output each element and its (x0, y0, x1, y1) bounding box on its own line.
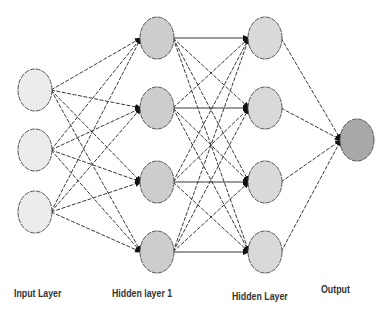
connection-edge (173, 182, 249, 252)
input-node-1 (18, 69, 52, 111)
hidden2-node-2 (248, 87, 282, 129)
connection-edge (281, 140, 341, 252)
hidden-layer-2-label: Hidden Layer (232, 291, 288, 302)
connection-edge (281, 38, 341, 140)
hidden-layer-1-label: Hidden layer 1 (112, 288, 172, 299)
hidden2-node-1 (248, 17, 282, 59)
connection-edge (173, 38, 249, 108)
connection-edge (51, 90, 141, 108)
output-layer-label: Output (321, 284, 350, 295)
connection-edge (51, 90, 141, 182)
connection-edge (51, 150, 141, 252)
connection-edge (51, 150, 141, 182)
hidden1-node-2 (140, 87, 174, 129)
neuron-nodes (18, 17, 374, 273)
output-node-1 (340, 119, 374, 161)
input-node-2 (18, 129, 52, 171)
connection-edge (51, 108, 141, 212)
input-node-3 (18, 191, 52, 233)
connection-edges (51, 38, 341, 252)
input-layer-label: Input Layer (14, 288, 61, 299)
hidden2-node-4 (248, 231, 282, 273)
hidden1-node-4 (140, 231, 174, 273)
connection-edge (51, 38, 141, 150)
connection-edge (281, 140, 341, 182)
hidden1-node-3 (140, 161, 174, 203)
neural-network-diagram (0, 0, 392, 315)
hidden1-node-1 (140, 17, 174, 59)
hidden2-node-3 (248, 161, 282, 203)
connection-edge (51, 212, 141, 252)
